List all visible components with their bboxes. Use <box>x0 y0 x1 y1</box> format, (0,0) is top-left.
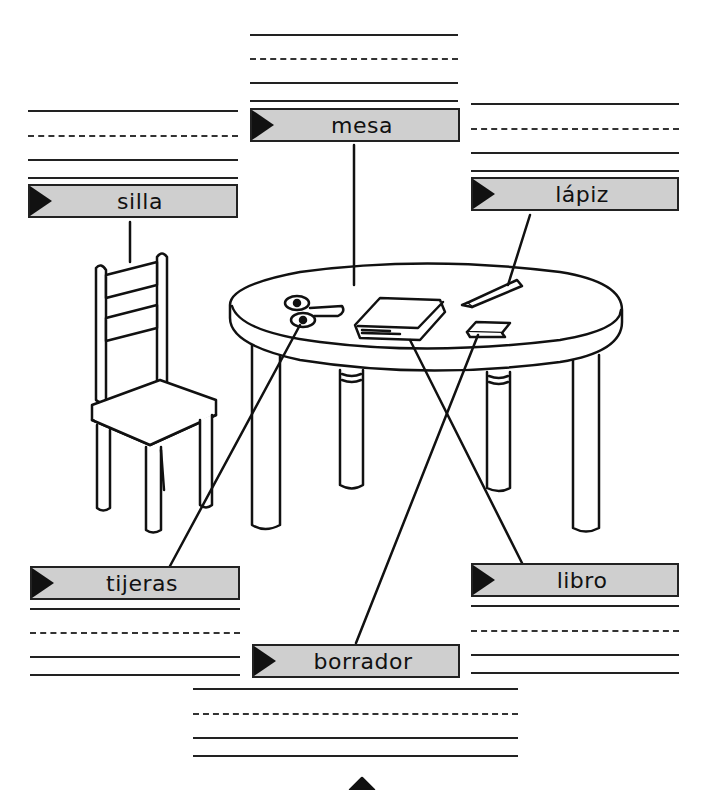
writing-line <box>250 34 458 36</box>
label-text: libro <box>543 568 608 593</box>
triangle-marker-icon <box>32 568 54 598</box>
label-text: tijeras <box>92 571 178 596</box>
writing-line-dashed <box>250 58 458 60</box>
writing-line <box>250 100 458 102</box>
label-silla: silla <box>28 184 238 218</box>
label-tijeras: tijeras <box>30 566 240 600</box>
writing-line <box>193 688 518 690</box>
writing-line <box>28 177 238 179</box>
writing-line-dashed <box>471 630 679 632</box>
writing-line <box>193 737 518 739</box>
writing-line-dashed <box>471 128 679 130</box>
label-text: mesa <box>317 113 393 138</box>
triangle-marker-icon <box>254 646 276 676</box>
label-text: silla <box>103 189 163 214</box>
writing-line <box>471 672 679 674</box>
writing-line <box>28 159 238 161</box>
eraser-illustration <box>467 322 510 337</box>
label-libro: libro <box>471 563 679 597</box>
writing-line <box>250 82 458 84</box>
page-arrow-icon <box>350 778 374 790</box>
writing-line <box>471 170 679 172</box>
writing-line <box>28 110 238 112</box>
label-text: lápiz <box>541 182 609 207</box>
writing-line <box>471 605 679 607</box>
triangle-marker-icon <box>473 565 495 595</box>
writing-line <box>193 755 518 757</box>
label-mesa: mesa <box>250 108 460 142</box>
writing-line <box>471 152 679 154</box>
writing-line <box>471 103 679 105</box>
label-text: borrador <box>299 649 412 674</box>
chair-illustration <box>92 254 216 533</box>
writing-line-dashed <box>28 135 238 137</box>
vocabulary-worksheet: mesa silla lápiz tijeras libro borrador <box>0 0 717 790</box>
label-borrador: borrador <box>252 644 460 678</box>
writing-line-dashed <box>193 713 518 715</box>
writing-line <box>30 656 240 658</box>
writing-line <box>30 674 240 676</box>
label-lapiz: lápiz <box>471 177 679 211</box>
writing-line-dashed <box>30 632 240 634</box>
writing-line <box>471 654 679 656</box>
writing-line <box>30 608 240 610</box>
triangle-marker-icon <box>473 179 495 209</box>
triangle-marker-icon <box>252 110 274 140</box>
triangle-marker-icon <box>30 186 52 216</box>
